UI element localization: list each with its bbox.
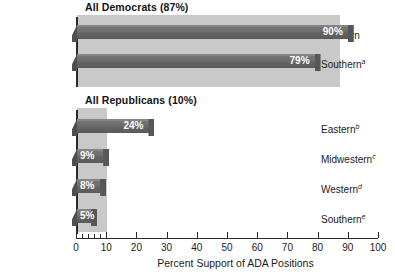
x-axis-minor-tick-6 <box>94 234 95 238</box>
row-label-midwestern: Midwesternc <box>321 154 395 165</box>
x-axis-tick-60 <box>257 232 258 238</box>
x-axis-tick-label-80: 80 <box>312 242 323 253</box>
row-label-eastern-text: Eastern <box>321 124 355 135</box>
republicans-group-title: All Republicans (10%) <box>85 94 197 106</box>
x-axis-tick-label-20: 20 <box>131 242 142 253</box>
bar-southern-republican: 5% <box>77 209 92 226</box>
x-axis-tick-40 <box>197 232 198 238</box>
bar-northern-top-highlight <box>77 25 349 27</box>
x-axis-line <box>76 238 378 239</box>
bar-northern-face <box>77 25 349 39</box>
bar-southern-dem-face <box>77 54 316 68</box>
x-axis-tick-0 <box>76 232 77 238</box>
row-label-southern-dem-footnote: a <box>362 58 366 65</box>
bar-northern: 90% <box>77 25 349 42</box>
bar-eastern-cap <box>148 119 154 136</box>
bar-western: 8% <box>77 179 101 196</box>
x-axis-minor-tick-4 <box>88 234 89 238</box>
bar-southern-rep-value-label: 5% <box>80 209 94 223</box>
x-axis-minor-tick-2 <box>82 234 83 238</box>
row-label-eastern: Easternb <box>321 124 395 135</box>
x-axis-tick-label-100: 100 <box>370 242 387 253</box>
bar-western-value-label: 8% <box>80 179 94 193</box>
x-axis-title: Percent Support of ADA Positions <box>0 257 395 269</box>
row-label-southern-dem-text: Southern <box>321 59 362 70</box>
bar-southern-democrat: 79% <box>77 54 316 71</box>
bar-southern-dem-value-label: 79% <box>290 54 310 68</box>
x-axis-tick-100 <box>378 232 379 238</box>
x-axis-tick-90 <box>348 232 349 238</box>
bar-southern-dem-cap <box>315 54 321 71</box>
ada-support-bar-chart: All Democrats (87%) Northern 90% Souther… <box>0 0 395 275</box>
x-axis-tick-label-60: 60 <box>252 242 263 253</box>
x-axis-tick-label-40: 40 <box>191 242 202 253</box>
x-axis-tick-70 <box>287 232 288 238</box>
democrats-group-title: All Democrats (87%) <box>85 1 188 13</box>
x-axis-tick-label-0: 0 <box>73 242 79 253</box>
x-axis-title-text: Percent Support of ADA Positions <box>81 257 313 269</box>
x-axis-tick-label-10: 10 <box>101 242 112 253</box>
x-axis-tick-label-50: 50 <box>221 242 232 253</box>
row-label-southern-rep: Southerne <box>321 214 395 225</box>
bar-midwestern-value-label: 9% <box>80 149 94 163</box>
bar-northern-cap <box>348 25 354 42</box>
bar-western-cap <box>100 179 106 196</box>
bar-southern-dem-top-highlight <box>77 54 316 56</box>
row-label-western: Westernd <box>321 184 395 195</box>
row-label-eastern-footnote: b <box>355 123 359 130</box>
x-axis-minor-tick-8 <box>100 234 101 238</box>
x-axis-minor-tick-10 <box>106 234 107 238</box>
row-label-southern-rep-footnote: e <box>362 213 366 220</box>
bar-eastern: 24% <box>77 119 149 136</box>
bar-midwestern-cap <box>103 149 109 166</box>
row-label-southern-rep-text: Southern <box>321 214 362 225</box>
x-axis-tick-80 <box>318 232 319 238</box>
x-axis-tick-label-90: 90 <box>342 242 353 253</box>
x-axis-tick-label-30: 30 <box>161 242 172 253</box>
x-axis-tick-20 <box>136 232 137 238</box>
x-axis-tick-50 <box>227 232 228 238</box>
row-label-midwestern-text: Midwestern <box>321 154 372 165</box>
bar-northern-value-label: 90% <box>323 25 343 39</box>
bar-eastern-value-label: 24% <box>123 119 143 133</box>
row-label-western-text: Western <box>321 184 358 195</box>
row-label-southern-dem: Southerna <box>321 59 395 70</box>
bar-midwestern: 9% <box>77 149 104 166</box>
x-axis-tick-label-70: 70 <box>282 242 293 253</box>
row-label-midwestern-footnote: c <box>372 153 376 160</box>
x-axis-tick-30 <box>167 232 168 238</box>
row-label-western-footnote: d <box>358 183 362 190</box>
